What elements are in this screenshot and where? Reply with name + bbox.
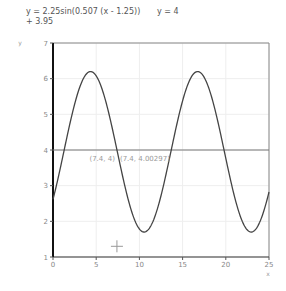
annotation-point-2: (7.4, 4.00297) — [120, 155, 170, 163]
x-tick-label: 20 — [221, 261, 230, 269]
y-tick-label: 3 — [44, 182, 48, 190]
x-tick-label: 10 — [135, 261, 144, 269]
chart-plot[interactable]: 05101520251234567xy(7.4, 4)(7.4, 4.00297… — [0, 0, 286, 291]
y-tick-label: 4 — [44, 147, 49, 155]
annotation-point-1: (7.4, 4) — [89, 155, 115, 163]
x-axis-label: x — [266, 270, 270, 277]
y-tick-label: 2 — [44, 218, 48, 226]
x-tick-label: 25 — [265, 261, 274, 269]
y-tick-label: 1 — [44, 254, 48, 262]
series-sine-curve[interactable] — [53, 72, 269, 233]
x-tick-label: 5 — [94, 261, 98, 269]
y-tick-label: 6 — [44, 75, 49, 83]
y-tick-label: 5 — [44, 111, 48, 119]
x-tick-label: 0 — [51, 261, 55, 269]
y-axis-label: y — [18, 39, 22, 47]
y-tick-label: 7 — [44, 40, 48, 48]
x-tick-label: 15 — [178, 261, 187, 269]
